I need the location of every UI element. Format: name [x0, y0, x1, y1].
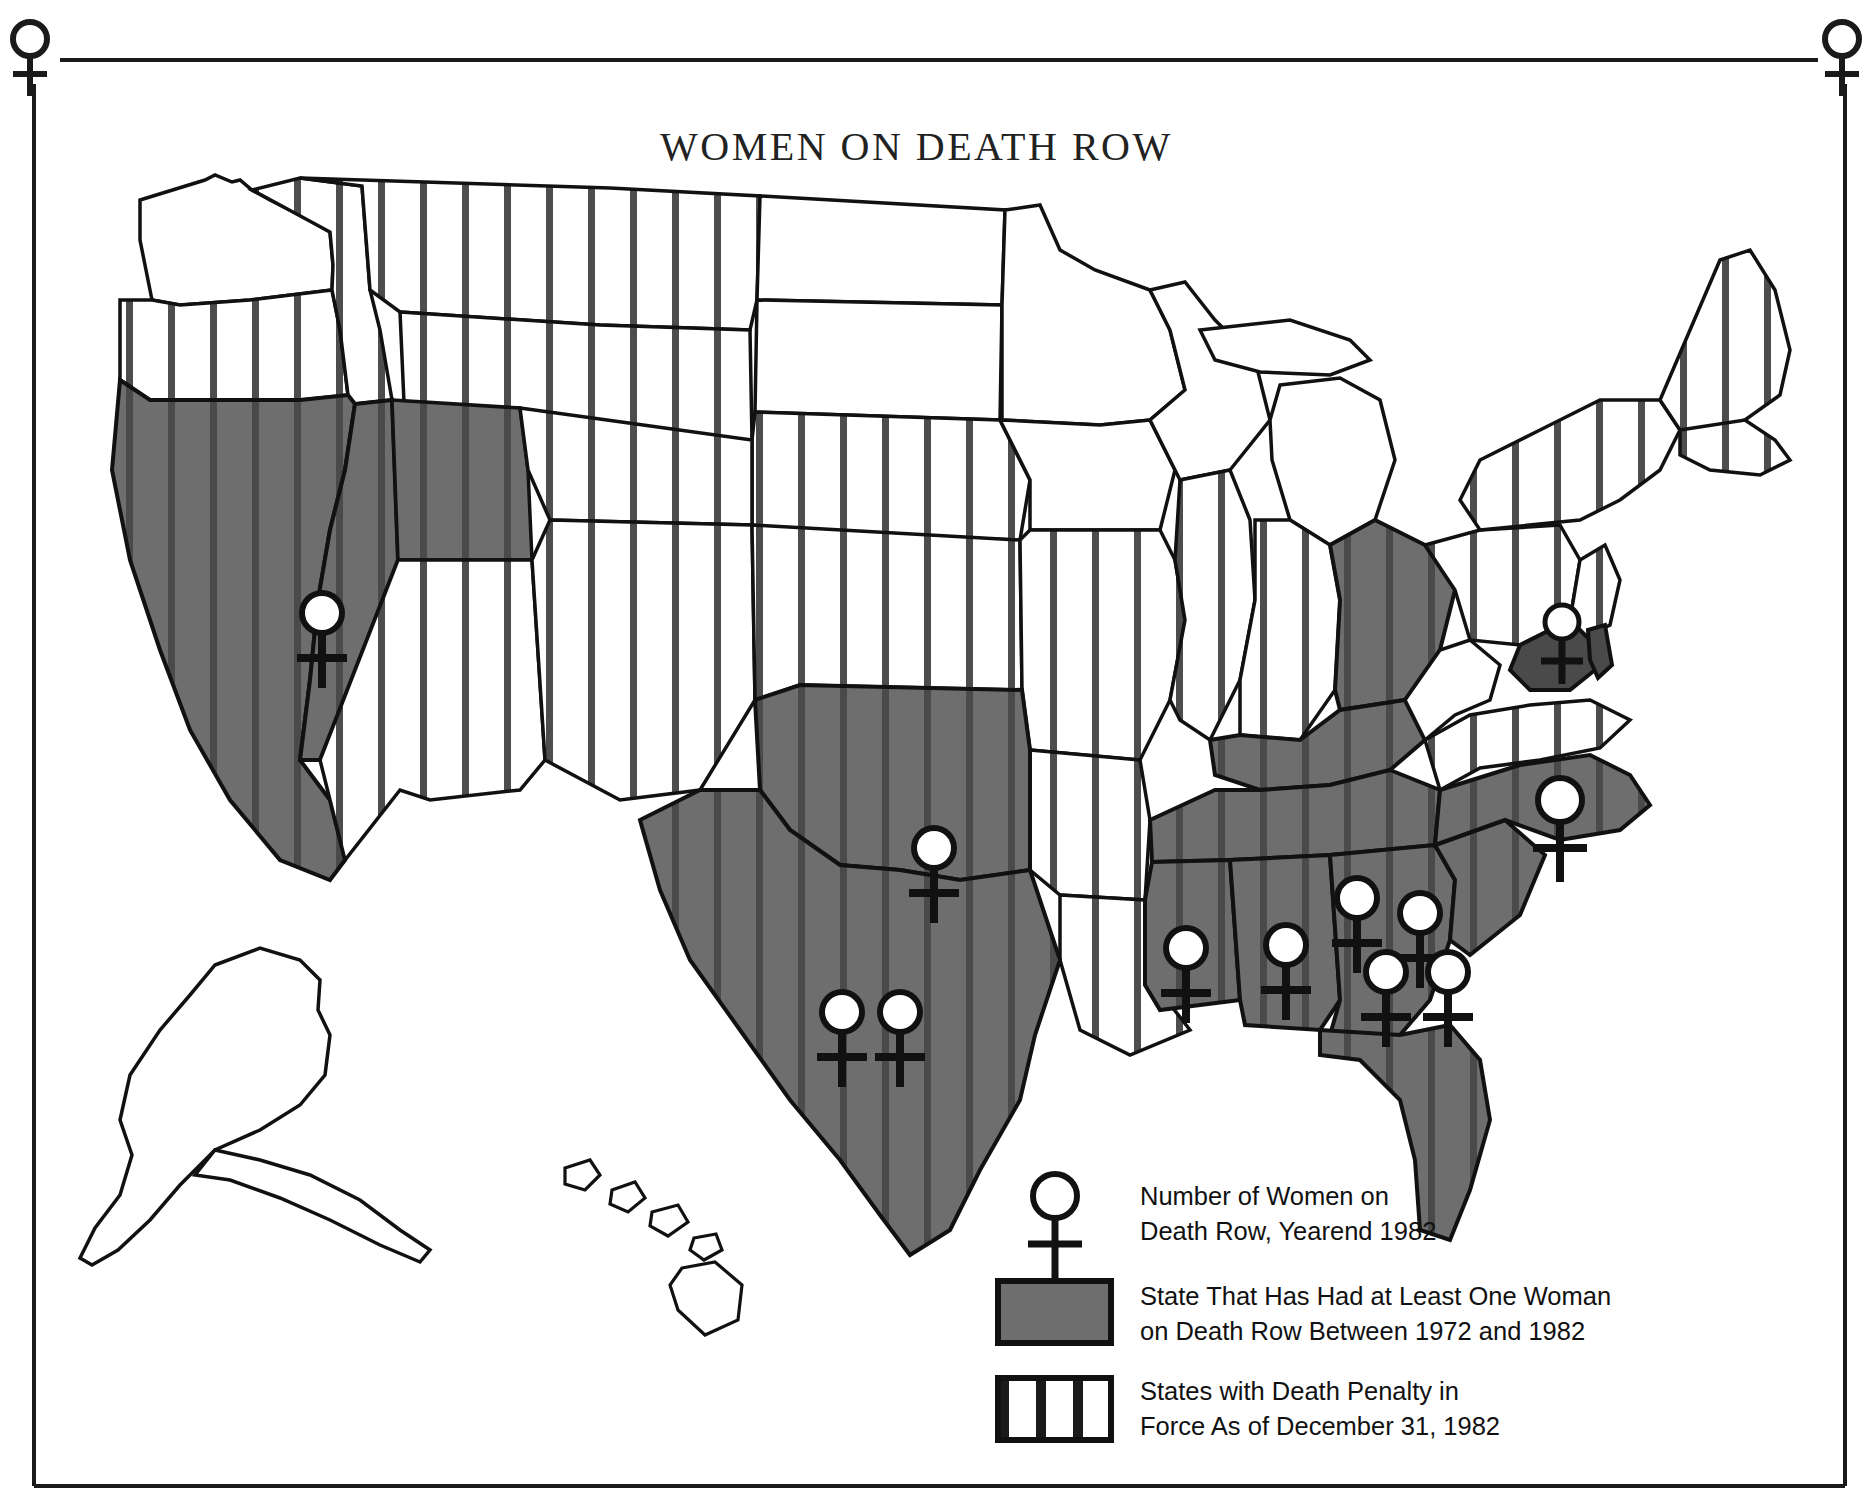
state-iowa [1000, 420, 1175, 530]
legend-item-death-penalty-state: States with Death Penalty in Force As of… [998, 1377, 1500, 1440]
state-missouri [1020, 530, 1185, 760]
state-utah [392, 400, 532, 560]
state-kansas [752, 525, 1022, 700]
state-indiana [1240, 520, 1340, 740]
legend-item-women-count: Number of Women on Death Row, Yearend 19… [1028, 1174, 1436, 1282]
page-title: WOMEN ON DEATH ROW [660, 124, 1173, 169]
legend-label-line1: Number of Women on [1140, 1182, 1389, 1210]
shaded-swatch [998, 1281, 1111, 1343]
legend-item-shaded-state: State That Has Had at Least One Woman on… [998, 1281, 1611, 1345]
legend-label-line1: State That Has Had at Least One Woman [1140, 1282, 1611, 1310]
state-arkansas [1030, 750, 1150, 900]
state-nebraska [752, 412, 1030, 540]
legend-label-line2: Death Row, Yearend 1982 [1140, 1217, 1436, 1245]
legend-label-line1: States with Death Penalty in [1140, 1377, 1459, 1405]
state-hawaii-inset [565, 1160, 742, 1335]
state-massachusetts [1680, 420, 1790, 475]
state-south-dakota [755, 300, 1002, 420]
us-map [80, 175, 1790, 1335]
venus-symbol [13, 22, 47, 96]
map-legend: Number of Women on Death Row, Yearend 19… [998, 1174, 1611, 1440]
venus-symbol [1825, 22, 1859, 96]
state-minnesota [1002, 205, 1185, 425]
state-oregon [120, 290, 348, 400]
legend-label-line2: Force As of December 31, 1982 [1140, 1412, 1500, 1440]
map-figure: WOMEN ON DEATH ROW [0, 0, 1875, 1499]
state-new-mexico [532, 520, 755, 800]
striped-swatch [998, 1378, 1111, 1440]
map-canvas: WOMEN ON DEATH ROW [0, 0, 1875, 1499]
venus-symbol [1028, 1174, 1082, 1282]
state-north-dakota [757, 196, 1005, 305]
legend-label-line2: on Death Row Between 1972 and 1982 [1140, 1317, 1585, 1345]
state-new-york [1460, 400, 1680, 530]
alaska-aleutians [195, 1150, 430, 1262]
state-new-england [1660, 250, 1790, 435]
state-alaska-inset [80, 948, 330, 1265]
